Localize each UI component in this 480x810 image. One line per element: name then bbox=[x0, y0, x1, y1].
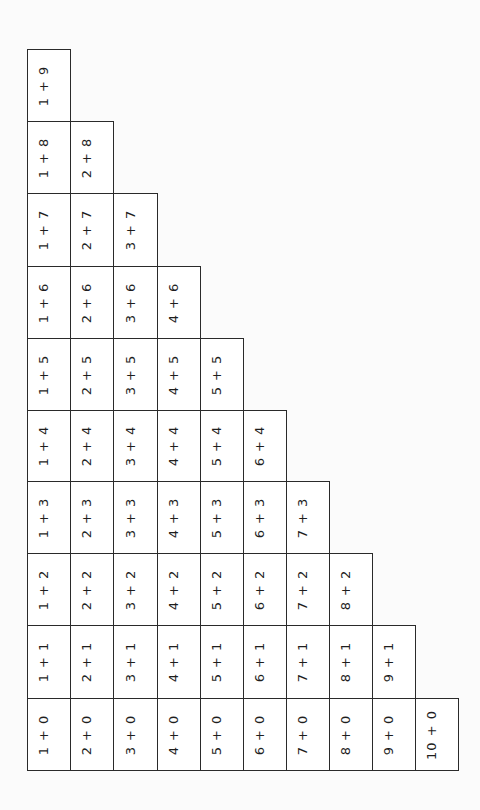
table-cell: 3 + 1 bbox=[113, 625, 158, 699]
table-cell: 1 + 7 bbox=[27, 193, 71, 267]
table-cell: 3 + 3 bbox=[113, 481, 158, 554]
table-cell: 3 + 4 bbox=[113, 410, 158, 482]
cell-label: 2 + 7 bbox=[79, 210, 94, 251]
cell-label: 2 + 1 bbox=[79, 642, 94, 683]
cell-label: 1 + 9 bbox=[36, 65, 51, 106]
cell-label: 8 + 1 bbox=[338, 642, 353, 683]
table-cell: 4 + 0 bbox=[157, 698, 201, 771]
table-cell: 3 + 0 bbox=[113, 698, 158, 771]
table-cell: 7 + 3 bbox=[286, 481, 330, 554]
table-cell: 4 + 3 bbox=[157, 481, 201, 554]
table-cell: 4 + 2 bbox=[157, 553, 201, 626]
cell-label: 1 + 2 bbox=[36, 569, 51, 610]
cell-label: 3 + 3 bbox=[122, 497, 137, 538]
table-cell: 1 + 5 bbox=[27, 338, 71, 411]
table-cell: 5 + 4 bbox=[200, 410, 244, 482]
table-cell: 2 + 3 bbox=[70, 481, 114, 554]
table-cell: 3 + 5 bbox=[113, 338, 158, 411]
addition-facts-table: 1 + 91 + 81 + 71 + 61 + 51 + 41 + 31 + 2… bbox=[0, 0, 480, 810]
cell-label: 4 + 1 bbox=[166, 642, 181, 683]
table-cell: 1 + 2 bbox=[27, 553, 71, 626]
cell-label: 2 + 4 bbox=[79, 426, 94, 467]
cell-label: 1 + 0 bbox=[36, 714, 51, 755]
table-cell: 5 + 1 bbox=[200, 625, 244, 699]
cell-label: 4 + 3 bbox=[166, 497, 181, 538]
table-cell: 1 + 6 bbox=[27, 266, 71, 339]
cell-label: 1 + 3 bbox=[36, 497, 51, 538]
cell-label: 3 + 7 bbox=[122, 210, 137, 251]
cell-label: 4 + 6 bbox=[166, 282, 181, 323]
cell-label: 5 + 3 bbox=[209, 497, 224, 538]
cell-label: 1 + 7 bbox=[36, 210, 51, 251]
cell-label: 8 + 2 bbox=[338, 569, 353, 610]
table-cell: 1 + 8 bbox=[27, 121, 71, 194]
table-cell: 7 + 2 bbox=[286, 553, 330, 626]
table-cell: 6 + 0 bbox=[243, 698, 287, 771]
table-cell: 5 + 2 bbox=[200, 553, 244, 626]
table-cell: 2 + 8 bbox=[70, 121, 114, 194]
table-cell: 2 + 7 bbox=[70, 193, 114, 267]
table-cell: 9 + 0 bbox=[372, 698, 416, 771]
table-cell: 5 + 5 bbox=[200, 338, 244, 411]
cell-label: 2 + 2 bbox=[79, 569, 94, 610]
cell-label: 1 + 4 bbox=[36, 426, 51, 467]
cell-label: 2 + 0 bbox=[79, 714, 94, 755]
table-cell: 4 + 1 bbox=[157, 625, 201, 699]
table-cell: 6 + 3 bbox=[243, 481, 287, 554]
table-cell: 6 + 1 bbox=[243, 625, 287, 699]
cell-label: 9 + 1 bbox=[381, 642, 396, 683]
cell-label: 3 + 6 bbox=[122, 282, 137, 323]
table-cell: 3 + 7 bbox=[113, 193, 158, 267]
cell-label: 1 + 8 bbox=[36, 137, 51, 178]
cell-label: 5 + 2 bbox=[209, 569, 224, 610]
cell-label: 7 + 0 bbox=[295, 714, 310, 755]
table-cell: 1 + 0 bbox=[27, 698, 71, 771]
table-cell: 7 + 0 bbox=[286, 698, 330, 771]
cell-label: 1 + 1 bbox=[36, 642, 51, 683]
table-cell: 6 + 4 bbox=[243, 410, 287, 482]
cell-label: 2 + 5 bbox=[79, 354, 94, 395]
cell-label: 3 + 4 bbox=[122, 426, 137, 467]
cell-label: 3 + 5 bbox=[122, 354, 137, 395]
cell-label: 2 + 3 bbox=[79, 497, 94, 538]
table-cell: 5 + 0 bbox=[200, 698, 244, 771]
table-cell: 8 + 1 bbox=[329, 625, 373, 699]
cell-label: 5 + 4 bbox=[209, 426, 224, 467]
cell-label: 3 + 0 bbox=[122, 714, 137, 755]
table-cell: 4 + 4 bbox=[157, 410, 201, 482]
cell-label: 1 + 5 bbox=[36, 354, 51, 395]
cell-label: 4 + 2 bbox=[166, 569, 181, 610]
table-cell: 2 + 2 bbox=[70, 553, 114, 626]
table-cell: 1 + 4 bbox=[27, 410, 71, 482]
cell-label: 5 + 0 bbox=[209, 714, 224, 755]
cell-label: 1 + 6 bbox=[36, 282, 51, 323]
cell-label: 4 + 5 bbox=[166, 354, 181, 395]
cell-label: 7 + 2 bbox=[295, 569, 310, 610]
table-cell: 10 + 0 bbox=[415, 698, 459, 771]
table-cell: 2 + 1 bbox=[70, 625, 114, 699]
table-cell: 1 + 1 bbox=[27, 625, 71, 699]
table-cell: 2 + 6 bbox=[70, 266, 114, 339]
cell-label: 2 + 8 bbox=[79, 137, 94, 178]
table-cell: 3 + 2 bbox=[113, 553, 158, 626]
cell-label: 3 + 2 bbox=[122, 569, 137, 610]
table-cell: 1 + 9 bbox=[27, 49, 71, 122]
cell-label: 7 + 1 bbox=[295, 642, 310, 683]
table-cell: 3 + 6 bbox=[113, 266, 158, 339]
cell-label: 10 + 0 bbox=[424, 710, 439, 760]
table-cell: 4 + 5 bbox=[157, 338, 201, 411]
table-cell: 2 + 0 bbox=[70, 698, 114, 771]
table-cell: 5 + 3 bbox=[200, 481, 244, 554]
cell-label: 6 + 0 bbox=[252, 714, 267, 755]
table-cell: 6 + 2 bbox=[243, 553, 287, 626]
table-cell: 2 + 4 bbox=[70, 410, 114, 482]
table-cell: 9 + 1 bbox=[372, 625, 416, 699]
cell-label: 6 + 3 bbox=[252, 497, 267, 538]
table-cell: 4 + 6 bbox=[157, 266, 201, 339]
table-cell: 2 + 5 bbox=[70, 338, 114, 411]
cell-label: 6 + 4 bbox=[252, 426, 267, 467]
cell-label: 6 + 2 bbox=[252, 569, 267, 610]
cell-label: 2 + 6 bbox=[79, 282, 94, 323]
table-cell: 8 + 0 bbox=[329, 698, 373, 771]
cell-label: 3 + 1 bbox=[122, 642, 137, 683]
